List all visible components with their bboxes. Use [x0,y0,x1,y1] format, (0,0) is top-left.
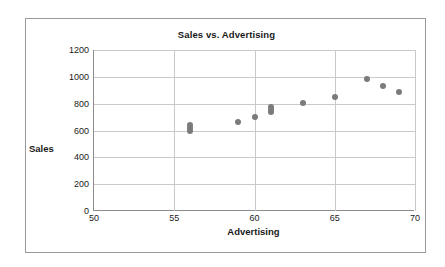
x-tick-label-60: 60 [249,213,259,223]
y-tick-label-400: 400 [74,152,94,162]
data-point [396,89,402,95]
x-axis-title: Advertising [93,226,414,237]
y-tick-label-1200: 1200 [69,45,94,55]
x-tick-label-70: 70 [410,213,420,223]
data-point [380,83,386,89]
data-point [332,94,338,100]
plot-area: 0200400600800100012005055606570 [93,50,414,211]
data-point [300,100,306,106]
y-axis-title: Sales [29,143,54,154]
y-tick-label-1000: 1000 [69,72,94,82]
x-tick-label-55: 55 [169,213,179,223]
chart-frame: Sales vs. Advertising Sales 020040060080… [25,18,426,253]
x-gridline [174,50,175,211]
y-tick-label-600: 600 [74,126,94,136]
x-tick-label-65: 65 [330,213,340,223]
chart-title: Sales vs. Advertising [26,29,427,40]
y-tick-label-200: 200 [74,179,94,189]
data-point [364,76,370,82]
x-gridline [335,50,336,211]
data-point [252,114,258,120]
y-tick-label-800: 800 [74,99,94,109]
data-point [235,119,241,125]
x-gridline [415,50,416,211]
x-tick-label-50: 50 [89,213,99,223]
x-gridline [255,50,256,211]
